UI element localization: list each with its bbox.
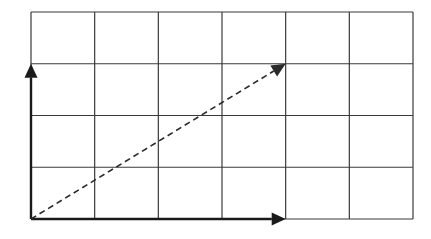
grid bbox=[31, 12, 413, 219]
vector-grid-diagram bbox=[0, 0, 431, 239]
resultant-vector-shaft bbox=[31, 71, 274, 219]
vectors bbox=[25, 64, 286, 226]
arrowhead-icon bbox=[272, 213, 286, 226]
vertical-vector bbox=[25, 64, 38, 219]
arrowhead-icon bbox=[270, 64, 285, 77]
arrowhead-icon bbox=[25, 64, 38, 78]
